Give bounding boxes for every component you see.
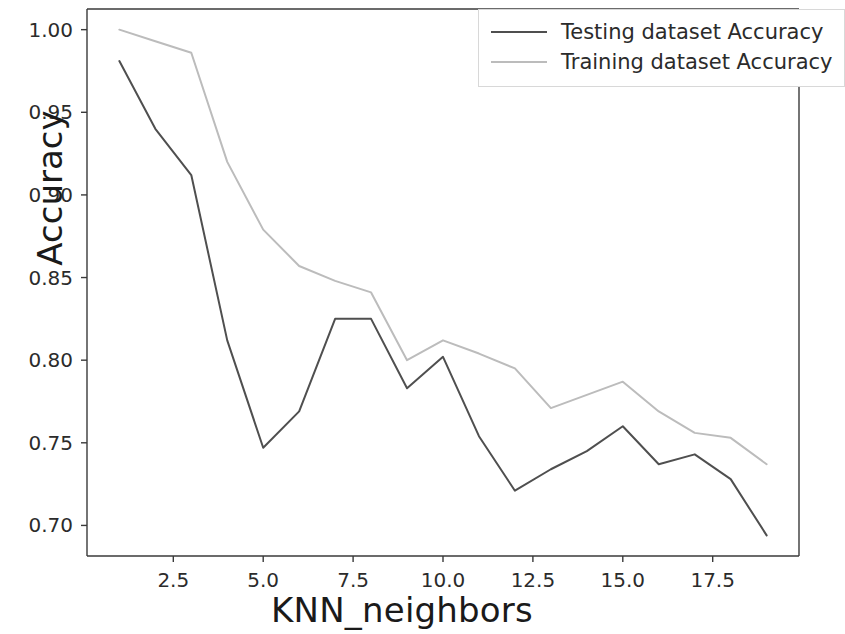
plot-background bbox=[87, 9, 799, 556]
chart-legend: Testing dataset AccuracyTraining dataset… bbox=[478, 9, 845, 87]
x-axis-tick-label: 7.5 bbox=[337, 568, 369, 592]
legend-line-swatch bbox=[491, 31, 547, 33]
y-axis-ticks bbox=[81, 30, 87, 526]
x-axis-tick-label: 17.5 bbox=[690, 568, 735, 592]
legend-label: Training dataset Accuracy bbox=[561, 50, 832, 74]
y-axis-title-wrapper: Accuracy bbox=[8, 170, 48, 410]
plot-axes-group bbox=[81, 9, 799, 562]
x-axis-tick-label: 12.5 bbox=[511, 568, 556, 592]
legend-item: Training dataset Accuracy bbox=[491, 47, 832, 77]
legend-line-swatch bbox=[491, 61, 547, 63]
y-axis-tick-label: 1.00 bbox=[0, 18, 73, 42]
x-axis-title: KNN_neighbors bbox=[0, 590, 804, 630]
x-axis-tick-label: 15.0 bbox=[601, 568, 646, 592]
x-axis-tick-label: 2.5 bbox=[157, 568, 189, 592]
y-axis-tick-label: 0.75 bbox=[0, 431, 73, 455]
x-axis-tick-label: 10.0 bbox=[421, 568, 466, 592]
legend-item: Testing dataset Accuracy bbox=[491, 17, 832, 47]
legend-label: Testing dataset Accuracy bbox=[561, 20, 823, 44]
x-axis-tick-label: 5.0 bbox=[247, 568, 279, 592]
y-axis-title: Accuracy bbox=[32, 68, 68, 308]
x-axis-ticks bbox=[173, 556, 712, 562]
y-axis-tick-label: 0.70 bbox=[0, 513, 73, 537]
